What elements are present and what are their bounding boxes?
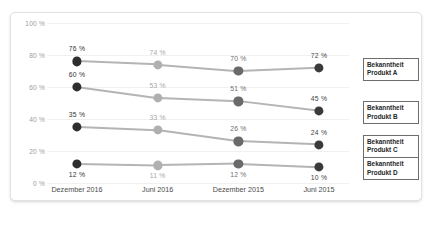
line-segment xyxy=(158,64,239,73)
gridline xyxy=(47,151,349,152)
chart-legend: BekanntheitProdukt ABekanntheitProdukt B… xyxy=(363,23,419,183)
data-point-label: 53 % xyxy=(150,82,166,89)
data-point[interactable] xyxy=(234,97,243,106)
line-segment xyxy=(238,100,319,112)
legend-item-line1: Bekanntheit xyxy=(367,104,415,113)
chart-screenshot: 0 %20 %40 %60 %80 %100 % 76 %74 %70 %72 … xyxy=(0,0,434,226)
data-point-label: 33 % xyxy=(150,114,166,121)
data-point-label: 60 % xyxy=(69,71,85,78)
y-axis-tick-label: 80 % xyxy=(29,52,45,59)
x-axis-tick-label: Juni 2015 xyxy=(303,185,334,194)
legend-item-line1: Bekanntheit xyxy=(367,61,415,70)
legend-item-line2: Produkt B xyxy=(367,113,415,122)
data-point-label: 11 % xyxy=(150,172,166,179)
data-point-label: 10 % xyxy=(311,174,327,181)
data-point[interactable] xyxy=(72,122,81,131)
data-point-label: 72 % xyxy=(311,52,327,59)
line-segment xyxy=(77,163,158,167)
x-axis: Dezember 2016Juni 2016Dezember 2015Juni … xyxy=(47,185,349,199)
data-point-label: 74 % xyxy=(150,49,166,56)
line-segment xyxy=(158,129,239,142)
y-axis-tick-label: 100 % xyxy=(25,20,45,27)
plot-area: 76 %74 %70 %72 %60 %53 %51 %45 %35 %33 %… xyxy=(47,23,349,183)
x-axis-tick-label: Dezember 2015 xyxy=(213,185,264,194)
legend-item-line1: Bekanntheit xyxy=(367,160,415,169)
line-segment xyxy=(238,140,319,145)
y-axis: 0 %20 %40 %60 %80 %100 % xyxy=(15,23,45,183)
line-segment xyxy=(77,60,158,65)
line-segment xyxy=(77,126,158,131)
data-point-label: 45 % xyxy=(311,95,327,102)
data-point-label: 35 % xyxy=(69,111,85,118)
legend-item-line2: Produkt D xyxy=(367,169,415,178)
legend-item-line2: Produkt C xyxy=(367,146,415,155)
line-segment xyxy=(238,67,319,72)
data-point[interactable] xyxy=(153,126,162,135)
legend-item-a[interactable]: BekanntheitProdukt A xyxy=(363,58,419,81)
data-point[interactable] xyxy=(72,82,81,91)
data-point[interactable] xyxy=(314,106,323,115)
data-point[interactable] xyxy=(153,60,162,69)
data-point-label: 26 % xyxy=(230,125,246,132)
line-segment xyxy=(158,163,239,167)
data-point[interactable] xyxy=(234,66,243,75)
gridline xyxy=(47,55,349,56)
data-point[interactable] xyxy=(153,94,162,103)
data-point-label: 76 % xyxy=(69,45,85,52)
legend-item-b[interactable]: BekanntheitProdukt B xyxy=(363,101,419,124)
data-point-label: 24 % xyxy=(311,129,327,136)
line-segment xyxy=(238,163,319,168)
legend-item-d[interactable]: BekanntheitProdukt D xyxy=(363,157,419,180)
data-point[interactable] xyxy=(234,159,243,168)
y-axis-tick-label: 20 % xyxy=(29,148,45,155)
data-point-label: 51 % xyxy=(230,85,246,92)
gridline xyxy=(47,119,349,120)
line-segment xyxy=(158,97,239,102)
data-point-label: 70 % xyxy=(230,55,246,62)
data-point[interactable] xyxy=(314,140,323,149)
legend-item-line2: Produkt A xyxy=(367,69,415,78)
data-point[interactable] xyxy=(72,159,81,168)
x-axis-tick-label: Juni 2016 xyxy=(142,185,173,194)
data-point-label: 12 % xyxy=(230,171,246,178)
data-point[interactable] xyxy=(234,137,243,146)
y-axis-tick-label: 60 % xyxy=(29,84,45,91)
y-axis-tick-label: 40 % xyxy=(29,116,45,123)
data-point[interactable] xyxy=(314,162,323,171)
gridline xyxy=(47,23,349,24)
data-point[interactable] xyxy=(314,63,323,72)
data-point[interactable] xyxy=(153,161,162,170)
x-axis-tick-label: Dezember 2016 xyxy=(51,185,102,194)
data-point[interactable] xyxy=(72,57,81,66)
legend-item-c[interactable]: BekanntheitProdukt C xyxy=(363,135,419,158)
gridline xyxy=(47,183,349,184)
y-axis-tick-label: 0 % xyxy=(33,180,45,187)
legend-item-line1: Bekanntheit xyxy=(367,138,415,147)
chart-card: 0 %20 %40 %60 %80 %100 % 76 %74 %70 %72 … xyxy=(10,12,422,201)
data-point-label: 12 % xyxy=(69,171,85,178)
